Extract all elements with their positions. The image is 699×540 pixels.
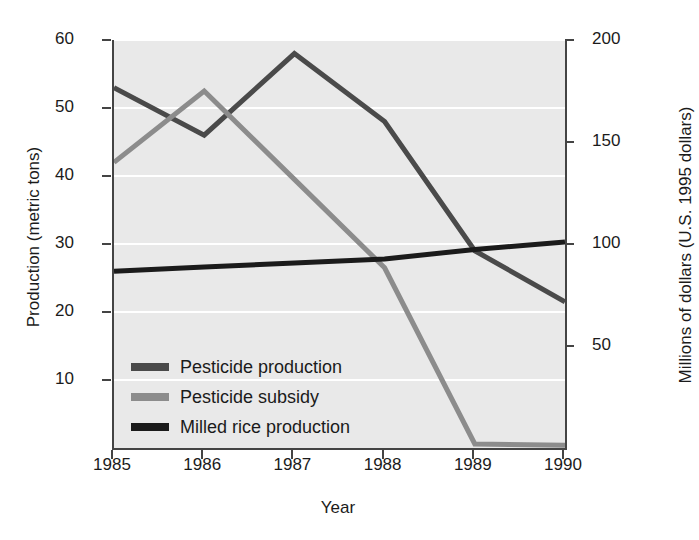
x-axis-tick-label: 1988 bbox=[348, 455, 418, 475]
y-axis-left-tick bbox=[102, 175, 111, 177]
legend-item-label: Milled rice production bbox=[180, 417, 350, 438]
x-axis-tick-label: 1987 bbox=[257, 455, 327, 475]
x-axis-tick-label: 1985 bbox=[77, 455, 147, 475]
y-axis-left-tick-label: 20 bbox=[4, 301, 74, 321]
y-axis-right-tick-label: 100 bbox=[592, 233, 662, 253]
y-axis-left-tick-label: 30 bbox=[4, 233, 74, 253]
legend-item: Milled rice production bbox=[131, 412, 350, 442]
y-axis-left-tick bbox=[102, 243, 111, 245]
y-axis-right-tick bbox=[565, 243, 574, 245]
y-axis-right-tick bbox=[565, 39, 574, 41]
legend-color-swatch-icon bbox=[131, 423, 169, 431]
y-axis-left-tick-label: 10 bbox=[4, 369, 74, 389]
legend-color-swatch-icon bbox=[131, 393, 169, 401]
legend-item-label: Pesticide production bbox=[180, 357, 342, 378]
y-axis-right-tick-label: 200 bbox=[592, 29, 662, 49]
y-axis-left-tick-label: 50 bbox=[4, 97, 74, 117]
y-axis-left-tick-label: 60 bbox=[4, 29, 74, 49]
y-axis-left-tick bbox=[102, 39, 111, 41]
y-axis-left-tick bbox=[102, 311, 111, 313]
y-axis-left-tick-label: 40 bbox=[4, 165, 74, 185]
y-axis-left-tick bbox=[102, 107, 111, 109]
y-axis-right-tick-label: 150 bbox=[592, 131, 662, 151]
series-line-3 bbox=[114, 242, 565, 271]
y-axis-right-title: Millions of dollars (U.S. 1995 dollars) bbox=[676, 30, 699, 460]
y-axis-right-tick-label: 50 bbox=[592, 335, 662, 355]
legend-color-swatch-icon bbox=[131, 363, 169, 371]
x-axis-title: Year bbox=[112, 498, 564, 518]
legend-item: Pesticide production bbox=[131, 352, 350, 382]
legend-item: Pesticide subsidy bbox=[131, 382, 350, 412]
x-axis-tick-label: 1990 bbox=[528, 455, 598, 475]
x-axis-tick-label: 1986 bbox=[167, 455, 237, 475]
y-axis-right-tick bbox=[565, 345, 574, 347]
y-axis-right-tick bbox=[565, 141, 574, 143]
series-line-1 bbox=[114, 54, 565, 302]
y-axis-left-tick bbox=[102, 379, 111, 381]
legend-item-label: Pesticide subsidy bbox=[180, 387, 319, 408]
chart-legend: Pesticide productionPesticide subsidyMil… bbox=[131, 352, 350, 442]
x-axis-tick-label: 1989 bbox=[438, 455, 508, 475]
